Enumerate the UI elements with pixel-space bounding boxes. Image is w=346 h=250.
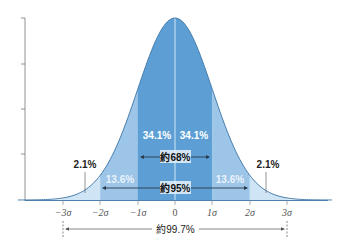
label-band-minus-2: 13.6% [106, 174, 134, 185]
normal-distribution-chart: −3σ −2σ −1σ 0 1σ 2σ 3σ 34.1% 34.1% 13.6%… [0, 0, 346, 250]
label-band-plus-1: 34.1% [180, 130, 208, 141]
tick-label-plus-1-sigma: 1σ [207, 207, 218, 218]
band-5 [250, 175, 287, 200]
y-axis [21, 18, 25, 201]
label-band-plus-3: 2.1% [257, 159, 280, 170]
range-label-997: 約99.7% [156, 223, 194, 235]
band-3 [175, 18, 212, 200]
tick-label-plus-3-sigma: 3σ [281, 207, 293, 218]
tick-label-zero: 0 [173, 207, 178, 218]
label-band-plus-2: 13.6% [216, 174, 244, 185]
tick-label-minus-3-sigma: −3σ [55, 207, 73, 218]
tick-label-minus-2-sigma: −2σ [92, 207, 110, 218]
range-label-68: 約68% [160, 151, 190, 163]
band-2 [138, 18, 175, 200]
range-label-95: 約95% [160, 182, 190, 194]
tick-label-plus-2-sigma: 2σ [245, 207, 256, 218]
tick-label-minus-1-sigma: −1σ [130, 207, 148, 218]
label-band-minus-1: 34.1% [143, 130, 171, 141]
label-band-minus-3: 2.1% [74, 159, 97, 170]
band-0 [63, 175, 100, 200]
